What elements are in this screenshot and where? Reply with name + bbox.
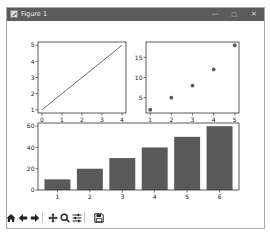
bar	[174, 137, 200, 190]
scatter-point	[212, 68, 216, 72]
matplotlib-app-icon	[10, 10, 18, 18]
y-tick-label: 1	[31, 106, 35, 113]
scatter-point	[191, 84, 195, 88]
toolbar-separator	[84, 212, 85, 223]
floppy-disk-icon	[94, 213, 104, 223]
home-button[interactable]	[5, 212, 16, 223]
y-tick-label: 5	[139, 94, 143, 101]
toolbar-separator	[42, 212, 43, 223]
x-tick-label: 6	[218, 193, 222, 200]
y-tick-label: 2	[31, 90, 35, 97]
y-tick-label: 20	[27, 165, 35, 172]
y-tick-label: 60	[27, 122, 35, 129]
move-icon	[48, 213, 58, 223]
navigation-toolbar	[7, 207, 264, 228]
x-tick-label: 2	[88, 193, 92, 200]
x-tick-label: 4	[120, 116, 124, 123]
bar	[109, 158, 135, 190]
scatter-point	[169, 96, 173, 100]
y-tick-label: 15	[135, 54, 143, 61]
x-tick-label: 2	[80, 116, 84, 123]
arrow-right-icon	[30, 213, 40, 223]
y-tick-label: 3	[31, 74, 35, 81]
y-tick-label: 0	[31, 186, 35, 193]
title-bar[interactable]: Figure 1 — ☐ ✕	[7, 8, 264, 21]
x-tick-label: 4	[212, 116, 216, 123]
save-button[interactable]	[93, 212, 104, 223]
y-tick-label: 5	[31, 41, 35, 48]
y-tick-label: 10	[135, 74, 143, 81]
bar-chart-axes[interactable]: 0204060123456	[27, 122, 239, 200]
x-tick-label: 1	[148, 116, 152, 123]
x-tick-label: 3	[120, 193, 124, 200]
line-plot-axes[interactable]: 1234501234	[31, 41, 126, 123]
y-tick-label: 40	[27, 144, 35, 151]
y-tick-label: 4	[31, 58, 35, 65]
home-icon	[6, 213, 16, 223]
bar	[77, 169, 103, 190]
x-tick-label: 5	[233, 116, 237, 123]
bar	[207, 126, 233, 190]
x-tick-label: 2	[169, 116, 173, 123]
configure-subplots-button[interactable]	[71, 212, 82, 223]
line-series	[42, 45, 122, 110]
x-tick-label: 3	[100, 116, 104, 123]
x-tick-label: 1	[60, 116, 64, 123]
x-tick-label: 4	[153, 193, 157, 200]
back-button[interactable]	[17, 212, 28, 223]
x-tick-label: 0	[40, 116, 44, 123]
close-button[interactable]: ✕	[245, 8, 263, 21]
figure-window: Figure 1 — ☐ ✕ 1234501234 5101512345 020…	[6, 7, 265, 229]
scatter-point	[148, 108, 152, 112]
minimize-button[interactable]: —	[206, 8, 224, 21]
pan-button[interactable]	[47, 212, 58, 223]
forward-button[interactable]	[29, 212, 40, 223]
x-tick-label: 5	[185, 193, 189, 200]
zoom-button[interactable]	[59, 212, 70, 223]
bar	[44, 179, 70, 190]
bar	[142, 147, 168, 190]
scatter-plot-axes[interactable]: 5101512345	[135, 42, 239, 123]
scatter-point	[233, 43, 237, 47]
magnifier-icon	[60, 213, 70, 223]
x-tick-label: 3	[191, 116, 195, 123]
window-title: Figure 1	[21, 9, 47, 20]
x-tick-label: 1	[56, 193, 60, 200]
maximize-button[interactable]: ☐	[225, 8, 243, 21]
figure-canvas[interactable]: 1234501234 5101512345 0204060123456	[7, 21, 264, 207]
sliders-icon	[72, 213, 82, 223]
arrow-left-icon	[18, 213, 28, 223]
